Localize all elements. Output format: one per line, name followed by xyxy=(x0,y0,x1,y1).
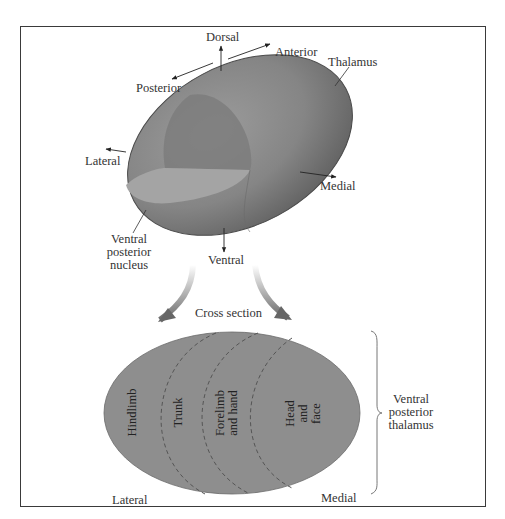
label-ventral-posterior-thalamus: Ventral posterior thalamus xyxy=(380,393,442,432)
region-label-forelimb-and-hand: Forelimb and hand xyxy=(214,378,240,448)
diagram-artwork xyxy=(0,0,505,519)
label-medial-bottom: Medial xyxy=(321,492,356,505)
label-medial-top: Medial xyxy=(320,180,355,193)
region-label-trunk: Trunk xyxy=(172,388,185,438)
label-cross-section: Cross section xyxy=(195,307,262,320)
label-lateral-top: Lateral xyxy=(85,155,120,168)
region-label-head-and-face: Head and face xyxy=(284,389,323,439)
label-dorsal: Dorsal xyxy=(206,31,239,44)
nucleus-leader-line xyxy=(133,210,146,233)
lateral-arrow-icon xyxy=(106,149,126,152)
label-posterior: Posterior xyxy=(136,82,181,95)
label-anterior: Anterior xyxy=(275,46,317,59)
label-ventral: Ventral xyxy=(208,254,244,267)
label-thalamus: Thalamus xyxy=(328,56,377,69)
region-label-hindlimb: Hindlimb xyxy=(126,383,139,443)
label-ventral-posterior-nucleus: Ventral posterior nucleus xyxy=(103,233,155,272)
left-curved-arrow-icon xyxy=(160,265,193,320)
label-lateral-bottom: Lateral xyxy=(112,494,147,507)
